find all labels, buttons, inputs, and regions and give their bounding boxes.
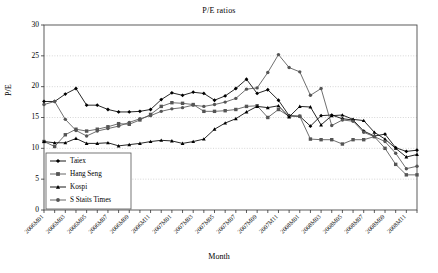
data-point bbox=[160, 105, 163, 108]
data-point bbox=[53, 145, 56, 148]
data-point bbox=[245, 87, 248, 90]
data-point bbox=[298, 70, 301, 73]
x-tick-label: 2008M03 bbox=[300, 213, 322, 235]
data-point bbox=[42, 100, 46, 104]
data-point bbox=[341, 118, 344, 121]
data-point bbox=[74, 129, 77, 132]
data-point bbox=[351, 138, 354, 141]
y-tick-label: 0 bbox=[35, 205, 39, 214]
data-point bbox=[298, 115, 301, 118]
legend-marker bbox=[56, 198, 60, 202]
data-point bbox=[415, 153, 419, 156]
data-point bbox=[255, 86, 258, 89]
data-point bbox=[106, 108, 110, 112]
data-point bbox=[394, 163, 397, 166]
x-tick-label: 2008M09 bbox=[364, 213, 386, 235]
data-point bbox=[394, 152, 397, 155]
data-point bbox=[64, 133, 67, 136]
x-tick-label: 2006M05 bbox=[65, 213, 87, 235]
data-point bbox=[138, 109, 142, 113]
x-tick-label: 2008M01 bbox=[279, 213, 301, 235]
data-point bbox=[309, 137, 312, 140]
x-tick-label: 2008M11 bbox=[385, 213, 407, 235]
plot-canvas: 0510152025302006M012006M032006M052006M07… bbox=[0, 0, 438, 273]
chart-figure: P/E ratios P/E Month 0510152025302006M01… bbox=[0, 0, 438, 273]
data-point bbox=[245, 105, 248, 108]
data-point bbox=[383, 140, 386, 143]
data-point bbox=[181, 106, 184, 109]
data-point bbox=[351, 120, 354, 123]
data-point bbox=[128, 121, 131, 124]
x-tick-label: 2006M09 bbox=[108, 213, 130, 235]
legend-label: Kospi bbox=[70, 183, 87, 191]
legend-label: Taiex bbox=[70, 157, 86, 165]
y-tick-label: 20 bbox=[32, 81, 40, 90]
x-tick-label: 2008M05 bbox=[321, 213, 343, 235]
data-point bbox=[181, 102, 184, 105]
y-tick-label: 30 bbox=[32, 20, 40, 29]
data-point bbox=[383, 147, 386, 150]
data-point bbox=[127, 110, 131, 114]
data-point bbox=[362, 138, 365, 141]
legend-label: S Staits Times bbox=[70, 196, 111, 204]
data-point bbox=[415, 148, 419, 152]
y-tick-label: 15 bbox=[32, 112, 40, 121]
data-point bbox=[181, 93, 185, 97]
x-tick-label: 2008M07 bbox=[342, 213, 364, 235]
y-tick-label: 10 bbox=[32, 143, 40, 152]
legend-label: Hang Seng bbox=[70, 170, 102, 178]
data-point bbox=[53, 100, 56, 103]
data-point bbox=[106, 127, 109, 130]
y-tick-label: 5 bbox=[35, 174, 39, 183]
data-point bbox=[213, 103, 216, 106]
series-line bbox=[44, 79, 417, 151]
x-tick-label: 2006M01 bbox=[23, 213, 45, 235]
data-point bbox=[42, 103, 45, 106]
data-point bbox=[405, 167, 408, 170]
data-point bbox=[319, 138, 322, 141]
chart-legend: TaiexHang SengKospiS Staits Times bbox=[46, 153, 131, 209]
data-point bbox=[96, 129, 99, 132]
data-point bbox=[117, 124, 120, 127]
data-point bbox=[170, 107, 173, 110]
data-point bbox=[319, 87, 322, 90]
data-point bbox=[95, 103, 99, 107]
x-tick-label: 2006M07 bbox=[87, 213, 109, 235]
data-point bbox=[330, 124, 333, 127]
series-line bbox=[44, 55, 417, 169]
x-tick-label: 2007M07 bbox=[215, 213, 237, 235]
x-tick-label: 2007M09 bbox=[236, 213, 258, 235]
data-point bbox=[149, 114, 152, 117]
data-point bbox=[234, 108, 237, 111]
data-point bbox=[192, 103, 195, 106]
data-point bbox=[415, 173, 418, 176]
legend-marker bbox=[56, 172, 60, 176]
data-point bbox=[362, 131, 365, 134]
data-point bbox=[223, 100, 226, 103]
data-point bbox=[138, 117, 141, 120]
data-point bbox=[415, 165, 418, 168]
data-point bbox=[245, 110, 249, 113]
data-point bbox=[213, 110, 216, 113]
data-point bbox=[85, 134, 88, 137]
data-point bbox=[405, 173, 408, 176]
data-point bbox=[202, 110, 205, 113]
data-point bbox=[404, 150, 408, 154]
data-point bbox=[309, 94, 312, 97]
x-tick-label: 2007M05 bbox=[193, 213, 215, 235]
data-point bbox=[266, 71, 269, 74]
series-taiex bbox=[42, 77, 419, 153]
x-tick-label: 2007M11 bbox=[257, 213, 279, 235]
data-point bbox=[330, 138, 333, 141]
data-point bbox=[234, 97, 237, 100]
data-point bbox=[341, 142, 344, 145]
data-point bbox=[117, 110, 121, 114]
data-point bbox=[223, 109, 226, 112]
x-tick-label: 2007M03 bbox=[172, 213, 194, 235]
x-tick-label: 2007M01 bbox=[151, 213, 173, 235]
data-point bbox=[287, 66, 290, 69]
data-point bbox=[266, 116, 269, 119]
data-point bbox=[160, 110, 163, 113]
data-point bbox=[74, 137, 78, 140]
data-point bbox=[213, 127, 217, 130]
